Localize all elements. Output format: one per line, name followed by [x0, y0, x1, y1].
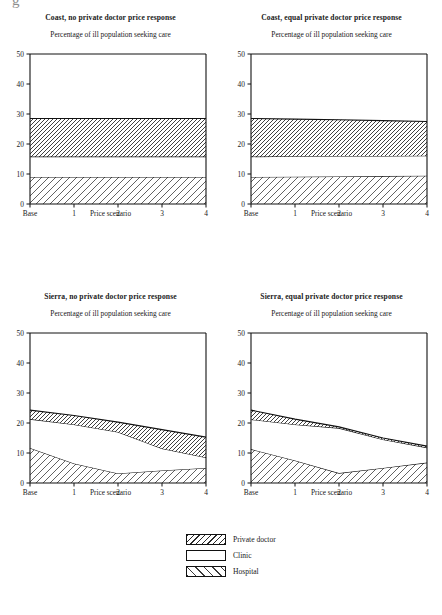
svg-text:1: 1: [72, 488, 76, 497]
plot-area: 01020304050Base1234: [0, 323, 221, 499]
legend-label: Hospital: [233, 568, 259, 576]
figure-panel-grid: Coast, no private doctor price response …: [0, 14, 442, 497]
svg-text:50: 50: [17, 329, 25, 338]
svg-text:3: 3: [160, 488, 164, 497]
svg-text:Base: Base: [244, 209, 259, 218]
svg-text:20: 20: [17, 419, 25, 428]
plot-area: 01020304050Base1234: [221, 323, 442, 499]
svg-text:2: 2: [116, 209, 120, 218]
svg-text:30: 30: [17, 110, 25, 119]
panel-sierra-no-response: Sierra, no private doctor price response…: [0, 293, 221, 498]
svg-text:4: 4: [204, 488, 208, 497]
svg-text:2: 2: [337, 209, 341, 218]
legend-label: Private doctor: [233, 536, 276, 544]
svg-text:40: 40: [17, 80, 25, 89]
legend-item-private-doctor: Private doctor: [186, 533, 276, 546]
svg-text:50: 50: [238, 50, 246, 59]
panel-row-sierra: Sierra, no private doctor price response…: [0, 293, 442, 498]
legend-swatch-hospital: [186, 566, 226, 577]
plot-area: 01020304050Base1234: [221, 44, 442, 220]
svg-text:1: 1: [293, 488, 297, 497]
panel-title: Sierra, equal private doctor price respo…: [221, 293, 442, 301]
svg-text:10: 10: [238, 449, 246, 458]
svg-text:1: 1: [72, 209, 76, 218]
panel-row-coast: Coast, no private doctor price response …: [0, 14, 442, 219]
panel-subtitle: Percentage of ill population seeking car…: [0, 310, 221, 318]
plot-area: 01020304050Base1234: [0, 44, 221, 220]
panel-title: Coast, no private doctor price response: [0, 14, 221, 22]
panel-sierra-equal-response: Sierra, equal private doctor price respo…: [221, 293, 442, 498]
panel-subtitle: Percentage of ill population seeking car…: [221, 310, 442, 318]
svg-text:50: 50: [238, 329, 246, 338]
svg-text:20: 20: [238, 419, 246, 428]
svg-text:10: 10: [17, 449, 25, 458]
svg-text:0: 0: [20, 479, 24, 488]
svg-text:3: 3: [381, 209, 385, 218]
svg-text:40: 40: [238, 80, 246, 89]
svg-text:0: 0: [241, 200, 245, 209]
svg-text:30: 30: [238, 389, 246, 398]
svg-text:10: 10: [17, 170, 25, 179]
svg-text:3: 3: [160, 209, 164, 218]
panel-title: Coast, equal private doctor price respon…: [221, 14, 442, 22]
svg-text:0: 0: [20, 200, 24, 209]
svg-text:20: 20: [17, 140, 25, 149]
legend-swatch-private-doctor: [186, 534, 226, 545]
svg-text:4: 4: [204, 209, 208, 218]
panel-coast-equal-response: Coast, equal private doctor price respon…: [221, 14, 442, 219]
panel-coast-no-response: Coast, no private doctor price response …: [0, 14, 221, 219]
svg-text:40: 40: [238, 359, 246, 368]
svg-text:2: 2: [337, 488, 341, 497]
svg-text:3: 3: [381, 488, 385, 497]
legend-swatch-clinic: [186, 550, 226, 561]
svg-text:10: 10: [238, 170, 246, 179]
legend-label: Clinic: [233, 552, 252, 560]
svg-text:50: 50: [17, 50, 25, 59]
figure-legend: Private doctor Clinic Hospital: [0, 533, 442, 578]
svg-text:Base: Base: [23, 488, 38, 497]
svg-text:Base: Base: [244, 488, 259, 497]
svg-text:Base: Base: [23, 209, 38, 218]
panel-subtitle: Percentage of ill population seeking car…: [0, 31, 221, 39]
panel-subtitle: Percentage of ill population seeking car…: [221, 31, 442, 39]
svg-text:20: 20: [238, 140, 246, 149]
panel-title: Sierra, no private doctor price response: [0, 293, 221, 301]
svg-text:30: 30: [17, 389, 25, 398]
svg-text:0: 0: [241, 479, 245, 488]
svg-text:4: 4: [425, 488, 429, 497]
legend-item-clinic: Clinic: [186, 549, 252, 562]
svg-text:30: 30: [238, 110, 246, 119]
svg-text:4: 4: [425, 209, 429, 218]
svg-text:2: 2: [116, 488, 120, 497]
scan-edge-artifact: g: [12, 0, 20, 8]
legend-item-hospital: Hospital: [186, 565, 259, 578]
svg-text:40: 40: [17, 359, 25, 368]
svg-text:1: 1: [293, 209, 297, 218]
